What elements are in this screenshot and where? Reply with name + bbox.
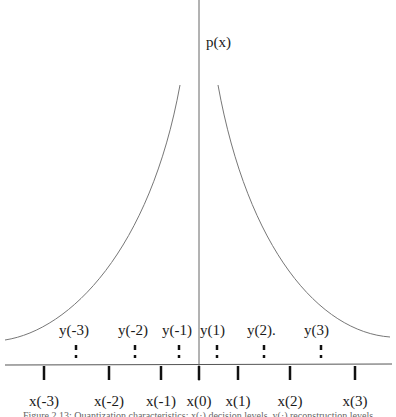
decision-level-label: x(-1) xyxy=(146,393,176,409)
reconstruction-level-label: y(-3) xyxy=(59,322,89,338)
decision-level-ticks xyxy=(44,366,355,380)
reconstruction-level-label: y(2). xyxy=(247,322,276,338)
decision-level-label: x(1) xyxy=(226,393,251,409)
reconstruction-level-label: y(-2) xyxy=(118,322,148,338)
reconstruction-level-label: y(1) xyxy=(200,322,225,338)
figure-caption: Figure 2.13: Quantization characteristic… xyxy=(0,409,396,417)
density-curve-right xyxy=(218,85,390,337)
reconstruction-level-label: y(3) xyxy=(304,322,329,338)
decision-level-label: x(3) xyxy=(343,393,368,409)
reconstruction-level-label: y(-1) xyxy=(162,322,192,338)
density-curve-left xyxy=(5,85,180,340)
decision-level-label: x(0) xyxy=(187,393,212,409)
decision-level-label: x(-2) xyxy=(94,393,124,409)
decision-level-label: x(-3) xyxy=(29,393,59,409)
y-axis-label: p(x) xyxy=(206,34,231,50)
decision-level-label: x(2) xyxy=(278,393,303,409)
diagram-canvas xyxy=(0,0,396,417)
